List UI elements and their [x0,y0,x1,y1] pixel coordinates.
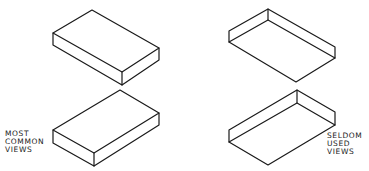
box-outline [229,9,335,82]
label-line: VIEWS [327,148,362,156]
box-top-left-common-view [53,10,159,85]
seldom-used-views-label: SELDOM USED VIEWS [327,132,362,156]
box-left-face [53,33,122,85]
box-right-face [122,48,159,85]
box-inner-edges [229,20,335,58]
box-right-face [94,113,159,166]
box-bottom-right-seldom-view [229,90,335,165]
box-outline [229,90,335,165]
box-top-right-seldom-view [229,9,335,82]
box-inner-edges [229,103,335,142]
most-common-views-label: MOST COMMON VIEWS [5,130,44,154]
box-top-face [53,90,159,153]
box-left-face [53,130,94,166]
label-line: VIEWS [5,146,44,154]
box-top-face [53,10,159,72]
isometric-diagram [0,0,369,171]
box-bottom-left-common-view [53,90,159,166]
